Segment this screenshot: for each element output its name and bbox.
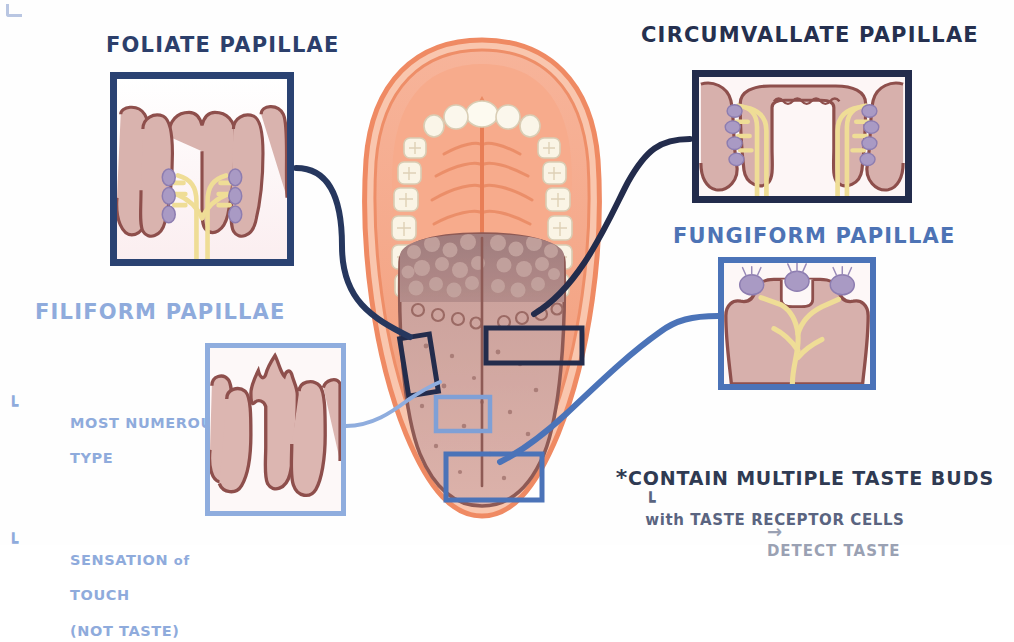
bullet-hook-3: ┗ [645,491,656,511]
label-circumvallate-papillae: CIRCUMVALLATE PAPILLAE [641,23,979,47]
taste-buds-sub-prefix: with [645,511,684,529]
filiform-inset [205,343,346,516]
connector-filiform [346,382,440,426]
bullet-hook-1: ┗ [8,397,19,485]
arrow-right-icon: → [767,521,783,542]
connector-circumvallate [534,139,690,314]
label-fungiform-papillae: FUNGIFORM PAPILLAE [673,224,955,248]
connector-fungiform [500,316,718,462]
label-filiform-papillae: FILIFORM PAPILLAE [35,300,286,324]
filiform-note-2-line-2: TOUCH [70,587,130,603]
filiform-note-2-line-3: (NOT TASTE) [70,623,179,639]
detect-taste-text: DETECT TASTE [767,542,901,560]
label-foliate-papillae: FOLIATE PAPILLAE [106,33,339,57]
filiform-note-1-line-2: TYPE [70,450,113,466]
foliate-inset [110,72,294,266]
bullet-hook-2: ┗ [8,534,19,642]
fungiform-inset [718,257,876,390]
filiform-note-1-line-1: MOST NUMEROUS [70,415,224,431]
circumvallate-inset [692,70,912,203]
connector-foliate [296,168,410,337]
filiform-notes: ┗ MOST NUMEROUS TYPE ┗ SENSATION of TOUC… [8,362,224,642]
filiform-note-2-line-1a: SENSATION [70,552,174,568]
detect-taste-note: → DETECT TASTE [742,503,901,578]
filiform-note-2-of: of [174,553,190,568]
